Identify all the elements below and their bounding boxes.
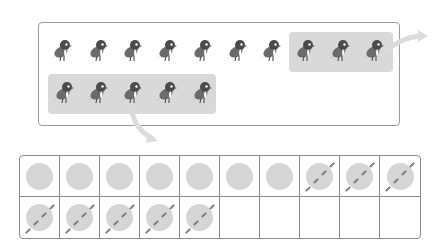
bird-icon [190, 79, 214, 105]
circle-counter-icon [106, 163, 133, 190]
circle-counter-icon [26, 163, 53, 190]
grid-cell [100, 156, 140, 197]
bird-icon [362, 37, 386, 63]
circle-counter-icon [266, 163, 293, 190]
bird-icon [259, 37, 283, 63]
grid-cell [20, 156, 60, 197]
grid-cell [60, 197, 100, 238]
grid-cell [260, 156, 300, 197]
bird-icon [50, 37, 74, 63]
bird-icon [120, 79, 144, 105]
bird-icon [190, 37, 214, 63]
bird-icon [120, 37, 144, 63]
bird-icon [293, 37, 317, 63]
bird-icon [86, 79, 110, 105]
grid-cell [60, 156, 100, 197]
bird-icon [155, 37, 179, 63]
grid-cell [260, 197, 300, 238]
grid-cell [340, 197, 380, 238]
bird-icon [328, 37, 352, 63]
circle-counter-icon [66, 163, 93, 190]
grid-cell [300, 156, 340, 197]
circle-counter-icon [226, 163, 253, 190]
grid-cell [340, 156, 380, 197]
grid-cell [300, 197, 340, 238]
bird-icon [225, 37, 249, 63]
bird-icon [155, 79, 179, 105]
grid-cell [380, 197, 420, 238]
grid-cell [180, 197, 220, 238]
grid-cell [140, 197, 180, 238]
grid-cell [180, 156, 220, 197]
grid-cell [20, 197, 60, 238]
circle-counter-icon [186, 163, 213, 190]
bird-icon [52, 79, 76, 105]
grid-cell [140, 156, 180, 197]
grid-cell [220, 156, 260, 197]
grid-cell [100, 197, 140, 238]
grid-cell [380, 156, 420, 197]
grid-cell [220, 197, 260, 238]
counter-grid [19, 155, 421, 239]
circle-counter-icon [146, 163, 173, 190]
bird-icon [86, 37, 110, 63]
